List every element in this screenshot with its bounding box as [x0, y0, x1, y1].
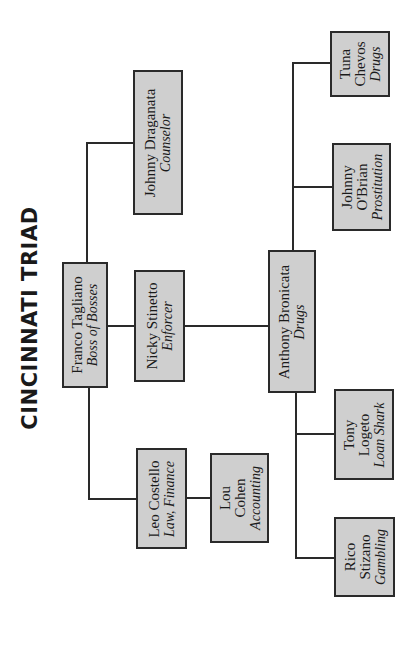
node-role: Drugs	[368, 42, 383, 87]
connector	[295, 433, 335, 435]
connector	[88, 498, 137, 500]
connector	[86, 142, 134, 144]
node-name: Johnny	[339, 154, 354, 220]
node-name: Franco Tagliano	[70, 276, 85, 373]
node-role: Accounting	[247, 466, 262, 530]
node-role: Drugs	[292, 264, 307, 379]
node-tony-logeto: Tony Logeto Loan Shark	[334, 389, 394, 480]
connector	[184, 325, 269, 327]
node-name: Leo Costello	[147, 460, 162, 537]
node-lou-cohen: Lou Cohen Accounting	[210, 453, 269, 543]
node-role: Prostitution	[369, 154, 384, 220]
node-name: Johnny Draganata	[143, 88, 158, 197]
node-franco-tagliano: Franco Tagliano Boss of Bosses	[62, 262, 108, 388]
node-name: Logeto	[357, 402, 372, 467]
node-role: Enforcer	[160, 282, 175, 369]
node-name: Nicky Stinetto	[145, 282, 160, 369]
node-nicky-stinetto: Nicky Stinetto Enforcer	[134, 270, 185, 382]
node-rico-stizano: Rico Stizano Gambling	[334, 517, 395, 597]
node-role: Boss of Bosses	[85, 276, 100, 373]
node-role: Law, Finance	[162, 460, 177, 537]
node-role: Loan Shark	[372, 402, 387, 467]
connector	[86, 142, 88, 263]
connector	[186, 497, 211, 499]
node-johnny-obrian: Johnny O'Brian Prostitution	[332, 143, 391, 231]
node-name: Anthony Bronicata	[277, 264, 292, 379]
node-johnny-draganata: Johnny Draganata Counselor	[133, 70, 183, 215]
connector	[88, 386, 90, 499]
node-anthony-bronicata: Anthony Bronicata Drugs	[268, 250, 316, 393]
node-name: Lou	[217, 466, 232, 530]
connector	[292, 62, 294, 251]
node-leo-costello: Leo Costello Law, Finance	[136, 448, 187, 549]
node-tuna-chevos: Tuna Chevos Drugs	[330, 31, 390, 97]
node-name: Rico	[342, 529, 357, 585]
node-name: O'Brian	[354, 154, 369, 220]
node-name: Tuna	[338, 42, 353, 87]
node-name: Chevos	[353, 42, 368, 87]
connector	[292, 62, 331, 64]
node-name: Stizano	[357, 529, 372, 585]
node-name: Tony	[342, 402, 357, 467]
node-role: Counselor	[158, 88, 173, 197]
connector	[107, 325, 135, 327]
connector	[295, 557, 335, 559]
connector	[293, 186, 333, 188]
node-name: Cohen	[232, 466, 247, 530]
node-role: Gambling	[372, 529, 387, 585]
chart-title: CINCINNATI TRIAD	[18, 206, 42, 429]
connector	[295, 391, 297, 558]
